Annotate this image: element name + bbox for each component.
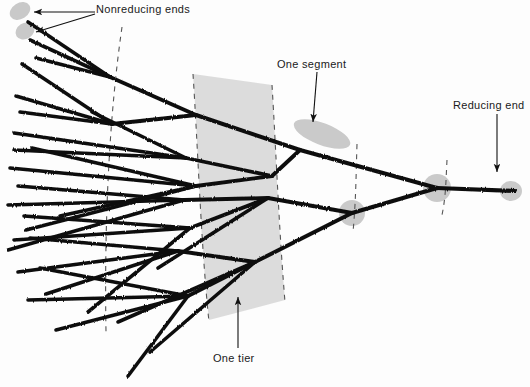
- leader-nonreducing-2: [36, 14, 95, 32]
- leader-one-segment: [313, 72, 317, 122]
- chain-g1-lower: [352, 188, 437, 213]
- chain-g2-b: [272, 150, 300, 176]
- chain-g2-c: [268, 198, 352, 213]
- chain-g3-c1: [184, 198, 268, 200]
- chain-g3-a2: [112, 115, 196, 124]
- chain-g3-a1: [110, 77, 196, 115]
- chain-g4-04: [16, 96, 112, 124]
- chain-reducing-trunk: [437, 188, 515, 191]
- chain-g4-08: [10, 168, 196, 186]
- label-nonreducing-ends: Nonreducing ends: [96, 3, 190, 15]
- label-one-tier: One tier: [213, 352, 255, 364]
- chain-g1-upper: [300, 150, 437, 188]
- chain-g4-13: [30, 238, 178, 251]
- polysaccharide-diagram: Nonreducing ends One segment Reducing en…: [0, 0, 530, 387]
- diagram-canvas: [0, 0, 530, 387]
- label-reducing-end: Reducing end: [453, 99, 525, 111]
- chain-g4-10: [8, 200, 184, 205]
- label-one-segment: One segment: [277, 58, 346, 70]
